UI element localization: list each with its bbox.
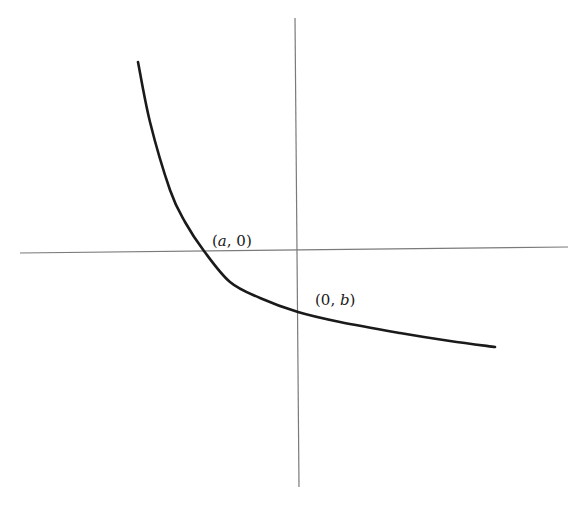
x-intercept-rest: , 0)	[227, 232, 252, 250]
y-intercept-open: (0,	[315, 291, 340, 309]
y-intercept-var: b	[340, 291, 350, 309]
x-axis	[20, 247, 568, 253]
graph-figure	[0, 0, 584, 510]
y-axis	[295, 18, 299, 487]
x-intercept-label: (a, 0)	[212, 232, 252, 250]
y-intercept-close: )	[350, 291, 356, 309]
y-intercept-label: (0, b)	[315, 291, 355, 309]
x-intercept-var: a	[218, 232, 227, 250]
